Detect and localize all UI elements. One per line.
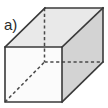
figure-label: a) [4, 17, 17, 32]
figure-panel: a) [0, 0, 108, 108]
